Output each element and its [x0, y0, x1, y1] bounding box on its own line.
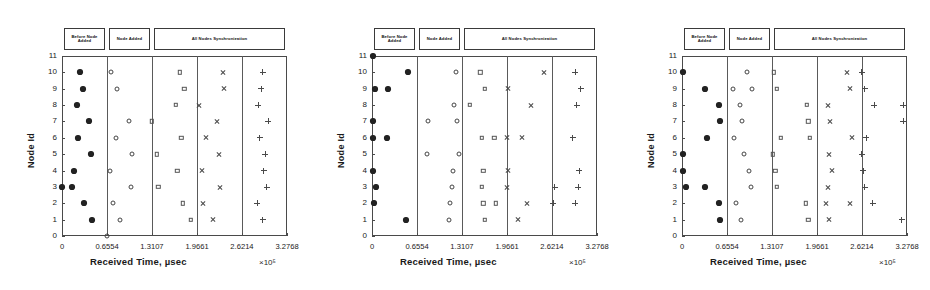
y-tick-mark — [372, 220, 375, 221]
data-point-circle — [449, 184, 454, 189]
plot-area — [372, 56, 597, 236]
data-point-star — [372, 201, 377, 206]
data-point-circle — [426, 119, 431, 124]
data-point-cross — [826, 151, 832, 157]
data-point-plus — [574, 102, 580, 108]
data-point-square — [803, 201, 807, 205]
y-tick-label: 9 — [43, 84, 57, 93]
zone-divider-3 — [197, 56, 198, 236]
x-tick-mark — [417, 233, 418, 236]
data-point-cross — [528, 102, 534, 108]
data-point-square — [806, 119, 810, 123]
data-point-cross — [829, 168, 835, 174]
data-point-square — [772, 70, 776, 74]
data-point-plus — [570, 135, 576, 141]
zone-divider-1 — [417, 56, 418, 236]
data-point-circle — [732, 135, 737, 140]
data-point-star — [717, 103, 722, 108]
x-tick-mark — [197, 233, 198, 236]
x-axis-exponent: ×10⁵ — [569, 258, 586, 267]
data-point-square — [467, 103, 471, 107]
data-point-circle — [748, 184, 753, 189]
data-point-cross — [203, 135, 209, 141]
data-point-cross — [505, 86, 511, 92]
x-axis-label: Received Time, µsec — [90, 256, 187, 267]
x-tick-mark — [552, 233, 553, 236]
data-point-star — [371, 168, 376, 173]
data-point-cross — [217, 184, 223, 190]
y-tick-label: 11 — [43, 51, 57, 60]
data-point-star — [718, 217, 723, 222]
y-tick-mark — [62, 171, 65, 172]
y-tick-label: 4 — [43, 166, 57, 175]
y-tick-label: 0 — [353, 231, 367, 240]
zone-divider-3 — [817, 56, 818, 236]
y-tick-label: 8 — [663, 100, 677, 109]
data-point-circle — [424, 152, 429, 157]
x-tick-label: 2.6214 — [850, 242, 873, 251]
data-point-star — [77, 70, 82, 75]
y-tick-label: 3 — [353, 182, 367, 191]
annotation-box-1: Before Node Added — [374, 28, 415, 50]
data-point-square — [156, 185, 160, 189]
data-point-star — [404, 217, 409, 222]
x-axis-exponent: ×10⁵ — [259, 258, 276, 267]
data-point-cross — [199, 168, 205, 174]
y-tick-label: 0 — [663, 231, 677, 240]
data-point-star — [684, 184, 689, 189]
x-tick-label: 0 — [60, 242, 64, 251]
data-point-plus — [859, 69, 865, 75]
data-point-plus — [863, 135, 869, 141]
y-tick-label: 5 — [353, 149, 367, 158]
chart-panel-2: Before Node AddedNode AddedAll Nodes Syn… — [310, 0, 620, 290]
data-point-plus — [257, 135, 263, 141]
annotation-box-1: Before Node Added — [64, 28, 105, 50]
data-point-square — [181, 201, 185, 205]
y-tick-mark — [682, 89, 685, 90]
y-tick-label: 10 — [43, 67, 57, 76]
x-tick-mark — [862, 233, 863, 236]
data-point-star — [90, 217, 95, 222]
x-tick-mark — [817, 233, 818, 236]
data-point-star — [88, 152, 93, 157]
y-tick-label: 1 — [353, 215, 367, 224]
y-tick-mark — [62, 72, 65, 73]
y-tick-mark — [372, 236, 375, 237]
y-tick-label: 11 — [353, 51, 367, 60]
x-tick-mark — [907, 233, 908, 236]
y-axis-label: Node Id — [26, 133, 36, 168]
y-tick-mark — [372, 154, 375, 155]
y-tick-label: 9 — [663, 84, 677, 93]
data-point-star — [374, 184, 379, 189]
x-tick-label: 0 — [680, 242, 684, 251]
x-tick-mark — [462, 233, 463, 236]
data-point-plus — [264, 184, 270, 190]
data-point-square — [189, 217, 193, 221]
annotation-box-3: All Nodes Synchronization — [774, 28, 905, 50]
data-point-plus — [254, 200, 260, 206]
data-point-star — [372, 86, 377, 91]
data-point-circle — [733, 201, 738, 206]
data-point-circle — [448, 201, 453, 206]
data-point-plus — [899, 217, 905, 223]
y-tick-label: 7 — [663, 116, 677, 125]
data-point-square — [174, 103, 178, 107]
data-point-plus — [860, 168, 866, 174]
data-point-circle — [453, 70, 458, 75]
x-tick-label: 3.2768 — [895, 242, 918, 251]
data-point-cross — [823, 200, 829, 206]
y-tick-label: 5 — [663, 149, 677, 158]
data-point-star — [87, 119, 92, 124]
data-point-circle — [117, 217, 122, 222]
data-point-star — [386, 86, 391, 91]
y-tick-mark — [62, 89, 65, 90]
zone-divider-4 — [242, 56, 243, 236]
y-tick-label: 4 — [353, 166, 367, 175]
y-tick-mark — [62, 203, 65, 204]
x-tick-mark — [597, 233, 598, 236]
zone-divider-4 — [552, 56, 553, 236]
data-point-circle — [744, 70, 749, 75]
y-tick-mark — [682, 105, 685, 106]
data-point-circle — [113, 135, 118, 140]
x-axis-exponent: ×10⁵ — [879, 258, 896, 267]
